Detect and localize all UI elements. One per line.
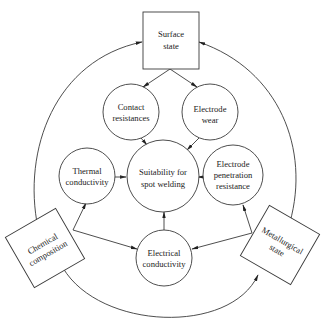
node-electrode-wear: Electrode wear	[182, 84, 238, 140]
node-label: resistance	[216, 181, 250, 191]
node-label: resistances	[112, 113, 150, 123]
spot-welding-diagram: Surface state Contact resistances Electr…	[0, 0, 325, 325]
node-label: state	[163, 41, 179, 51]
edge-surface-to-wear	[170, 69, 197, 87]
node-label: conductivity	[143, 259, 187, 269]
node-electrical-conductivity: Electrical conductivity	[136, 230, 192, 286]
node-label: wear	[202, 115, 219, 125]
node-metallurgical-state: Metallurgical state	[240, 205, 319, 284]
node-label: Surface	[158, 29, 184, 39]
edge-chemical-to-thermal	[73, 203, 86, 230]
node-label: penetration	[214, 170, 253, 180]
node-label: Thermal	[72, 166, 102, 176]
node-thermal-conductivity: Thermal conductivity	[59, 148, 115, 204]
edge-chemical-to-electrical	[73, 230, 137, 249]
node-label: Electrode	[217, 159, 250, 169]
edge-surface-to-contact	[143, 69, 170, 87]
node-electrode-penetration-resistance: Electrode penetration resistance	[203, 145, 263, 205]
node-label: spot welding	[141, 179, 186, 189]
edge-wear-to-center	[187, 138, 199, 150]
node-suitability-center: Suitability for spot welding	[127, 140, 199, 212]
node-label: Electrical	[148, 248, 182, 258]
edge-metallurgical-to-electrical	[192, 233, 252, 249]
node-chemical-composition: Chemical composition	[5, 208, 84, 287]
node-surface-state: Surface state	[143, 12, 199, 69]
node-label: conductivity	[66, 177, 110, 187]
node-contact-resistances: Contact resistances	[103, 84, 159, 140]
node-label: Contact	[118, 102, 145, 112]
node-label: Suitability for	[139, 167, 187, 177]
edge-metallurgical-to-penetration	[243, 205, 252, 233]
node-label: Electrode	[194, 104, 227, 114]
